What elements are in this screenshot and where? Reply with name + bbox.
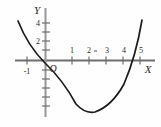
y-tick-label-4: 4 <box>36 19 40 28</box>
y-tick-label-2: 2 <box>36 37 40 46</box>
x-tick-label-4: 4 <box>122 46 126 55</box>
graph-svg: Y X O -1 1 2 3 4 5 4 2 <box>0 0 161 127</box>
x-tick-label-1: 1 <box>70 46 74 55</box>
y-axis-label: Y <box>34 4 42 16</box>
x-tick-label-2: 2 <box>87 46 91 55</box>
x-axis-label: X <box>144 63 153 75</box>
x-tick-label-3: 3 <box>105 46 109 55</box>
x-tick-label-neg1: -1 <box>24 67 31 76</box>
parabola-figure: Y X O -1 1 2 3 4 5 4 2 <box>0 0 161 127</box>
origin-label: O <box>49 63 56 74</box>
parabola-curve <box>18 20 142 112</box>
x-tick-label-5: 5 <box>139 46 143 55</box>
